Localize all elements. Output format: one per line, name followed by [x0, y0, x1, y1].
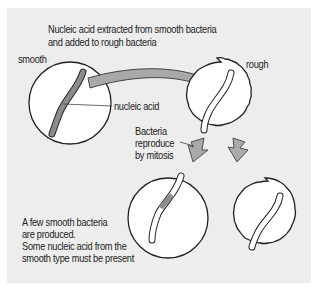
conclusion-line1: A few smooth bacteria: [22, 216, 107, 228]
smooth-label: smooth: [18, 53, 47, 65]
reproduce-label-line1: Bacteria: [135, 125, 167, 137]
nucleic-acid-label: nucleic acid: [114, 100, 159, 112]
mitosis-arrow-right-icon: [228, 138, 248, 162]
reproduce-label-line3: by mitosis: [135, 149, 173, 161]
smooth-bacterium: [29, 62, 111, 144]
conclusion-line3: Some nucleic acid from the: [22, 240, 127, 252]
conclusion-line2: are produced.: [22, 228, 76, 240]
diagram-title-line1: Nucleic acid extracted from smooth bacte…: [48, 23, 216, 35]
rough-label: rough: [246, 58, 268, 70]
transformed-bacterium: [128, 176, 208, 258]
conclusion-line4: smooth type must be present: [22, 252, 134, 264]
mitosis-arrow-left-icon: [188, 138, 208, 162]
diagram-title-line2: and added to rough bacteria: [48, 36, 156, 48]
rough-bacterium-offspring: [234, 178, 296, 247]
rough-bacterium: [187, 58, 252, 130]
reproduce-label-line2: reproduce: [135, 137, 174, 149]
